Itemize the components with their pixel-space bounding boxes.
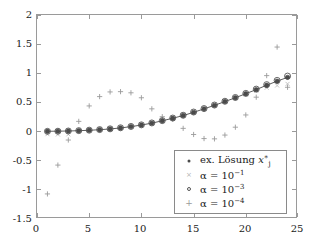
legend-item-alpha1: × α = 10−1 <box>178 168 282 182</box>
series-exact-solution <box>45 75 290 133</box>
x-tick-label-1: 5 <box>78 224 98 234</box>
y-tick-label-5: -0.5 <box>6 156 32 166</box>
legend-marker-dot-icon <box>178 154 200 168</box>
y-tick-label-4: 0 <box>6 127 32 137</box>
y-tick-label-7: -1.5 <box>6 214 32 224</box>
legend-marker-circle-icon <box>178 182 200 196</box>
x-tick-label-4: 20 <box>235 224 255 234</box>
legend-item-alpha3: α = 10−3 <box>178 182 282 196</box>
x-tick-label-0: 0 <box>26 224 46 234</box>
y-tick-label-6: -1 <box>6 185 32 195</box>
y-tick-label-3: 0.5 <box>6 97 32 107</box>
y-tick-label-0: 2 <box>6 10 32 20</box>
x-tick-label-5: 25 <box>287 224 307 234</box>
legend-marker-plus-icon: + <box>178 196 200 210</box>
series-exact-line <box>47 77 287 131</box>
legend-item-exact: ex. Lösung x∗j <box>178 154 282 168</box>
legend-box: ex. Lösung x∗j × α = 10−1 α = 10−3 + α =… <box>174 150 287 214</box>
legend-label-alpha4: α = 10−4 <box>200 197 245 209</box>
legend-marker-x-icon: × <box>178 168 200 182</box>
x-tick-label-3: 15 <box>183 224 203 234</box>
legend-label-alpha3: α = 10−3 <box>200 183 245 195</box>
figure-canvas: 2 1.5 1 0.5 0 -0.5 -1 -1.5 0 5 10 15 20 … <box>0 0 316 251</box>
legend-item-alpha4: + α = 10−4 <box>178 196 282 210</box>
y-tick-label-2: 1 <box>6 68 32 78</box>
legend-label-exact: ex. Lösung x∗j <box>200 153 271 168</box>
series-alpha-1e-3 <box>44 73 290 134</box>
x-tick-label-2: 10 <box>130 224 150 234</box>
y-tick-label-1: 1.5 <box>6 39 32 49</box>
legend-label-alpha1: α = 10−1 <box>200 169 245 181</box>
